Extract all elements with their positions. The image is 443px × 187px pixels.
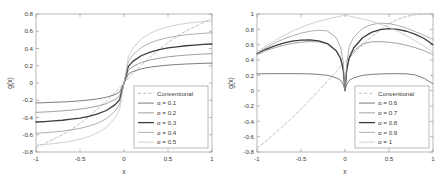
y-tick-label: 0.4: [24, 45, 33, 52]
legend-label: α = 0.7: [378, 109, 398, 116]
y-tick-label: -0.4: [243, 118, 254, 125]
legend-label: α = 0.2: [157, 109, 177, 116]
y-tick-label: -0.4: [22, 114, 33, 121]
y-tick-label: -0.2: [22, 96, 33, 103]
series-line: [257, 15, 433, 52]
chart-svg-right: -1-0.500.51-0.8-0.6-0.4-0.200.20.40.60.8…: [221, 0, 443, 187]
x-tick-label: -0.5: [296, 155, 307, 162]
legend-label: α = 1: [378, 138, 393, 145]
y-axis-label: g(x): [6, 77, 14, 88]
legend-label: α = 0.1: [157, 99, 177, 106]
y-tick-label: 0.6: [245, 41, 254, 48]
y-tick-label: 0.8: [24, 10, 33, 17]
legend-label: Conventional: [378, 90, 414, 97]
y-tick-label: 0.2: [24, 62, 33, 69]
x-tick-label: -0.5: [75, 155, 86, 162]
x-tick-label: 0: [343, 155, 347, 162]
legend-label: α = 0.5: [157, 138, 177, 145]
series-line: [257, 23, 433, 90]
x-tick-label: -1: [254, 155, 260, 162]
x-axis-label: x: [343, 168, 347, 175]
y-tick-label: 0.6: [24, 27, 33, 34]
x-axis-label: x: [122, 168, 126, 175]
y-tick-label: -0.8: [22, 148, 33, 155]
y-tick-label: 0.8: [245, 26, 254, 33]
legend-label: Conventional: [157, 90, 193, 97]
legend-label: α = 0.9: [378, 129, 398, 136]
legend-label: α = 0.8: [378, 119, 398, 126]
x-tick-label: 1: [210, 155, 214, 162]
y-tick-label: -0.6: [243, 133, 254, 140]
y-tick-label: 0: [251, 87, 255, 94]
legend-label: α = 0.6: [378, 99, 398, 106]
y-axis-label: g(x): [227, 77, 235, 88]
y-tick-label: -0.6: [22, 131, 33, 138]
y-tick-label: 1: [251, 10, 255, 17]
figure-root: -1-0.500.51-0.8-0.6-0.4-0.200.20.40.60.8…: [0, 0, 443, 187]
y-tick-label: 0.4: [245, 56, 254, 63]
chart-svg-left: -1-0.500.51-0.8-0.6-0.4-0.200.20.40.60.8…: [0, 0, 221, 187]
legend-label: α = 0.4: [157, 129, 177, 136]
y-tick-label: 0.2: [245, 72, 254, 79]
x-tick-label: 0.5: [385, 155, 394, 162]
x-tick-label: 0: [122, 155, 126, 162]
y-tick-label: 0: [30, 79, 34, 86]
chart-panel-right: -1-0.500.51-0.8-0.6-0.4-0.200.20.40.60.8…: [221, 0, 442, 187]
legend-label: α = 0.3: [157, 119, 177, 126]
x-tick-label: -1: [33, 155, 39, 162]
y-tick-label: -0.2: [243, 102, 254, 109]
y-tick-label: -0.8: [243, 148, 254, 155]
series-line: [257, 29, 433, 91]
x-tick-label: 0.5: [164, 155, 173, 162]
x-tick-label: 1: [431, 155, 435, 162]
chart-panel-left: -1-0.500.51-0.8-0.6-0.4-0.200.20.40.60.8…: [0, 0, 221, 187]
